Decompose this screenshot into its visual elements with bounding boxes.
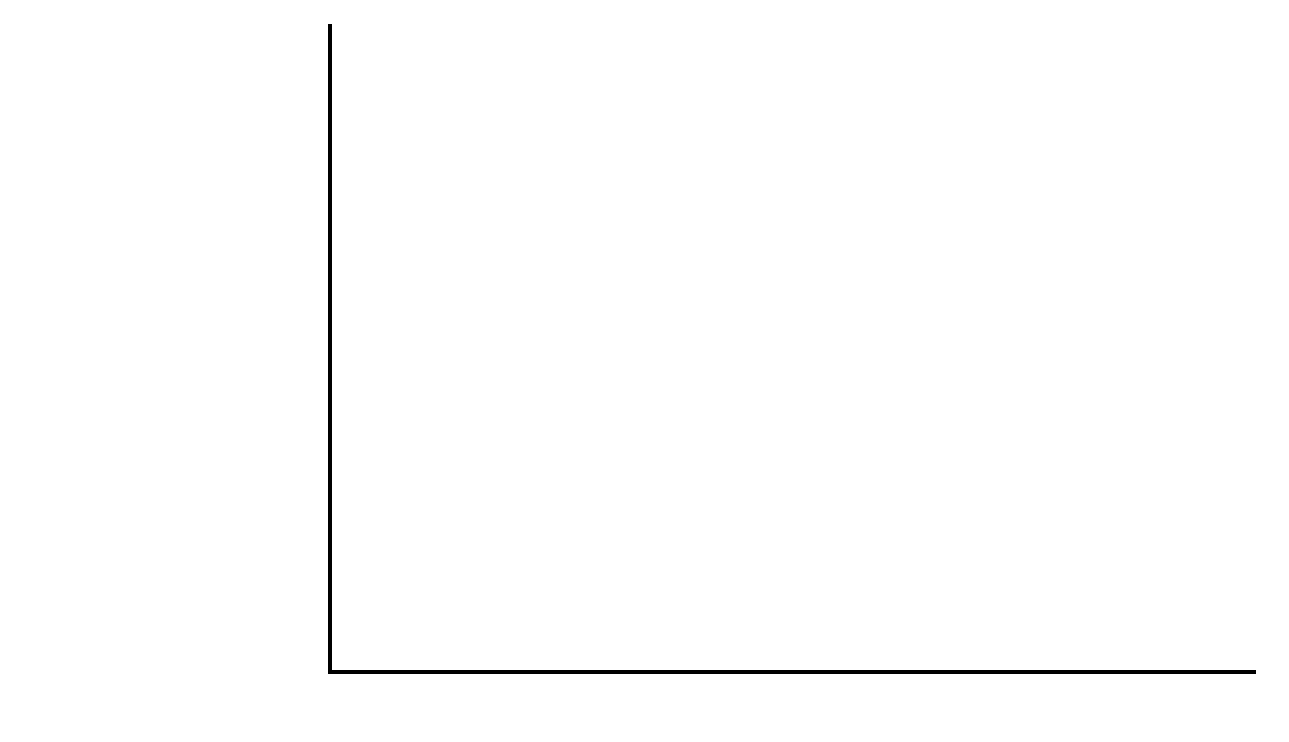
x-axis-line [328,670,1256,674]
figure-bar-chart-net-primary-productivity [0,0,1289,742]
y-axis-line [328,24,332,674]
plot-area [0,0,1289,742]
